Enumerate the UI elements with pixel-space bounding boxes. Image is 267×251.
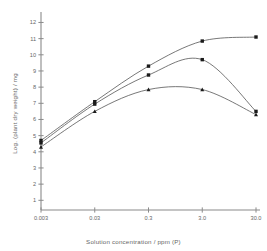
y-tick-label: 1 <box>33 197 36 203</box>
data-point-marker <box>201 39 204 42</box>
data-point-marker <box>201 58 204 61</box>
y-tick-label: 11 <box>30 36 36 42</box>
y-axis-title: Log. (plant dry weight) / mg <box>11 44 18 184</box>
data-series <box>39 35 258 148</box>
data-point-marker <box>254 35 257 38</box>
x-axis-title: Solution concentration / ppm (P) <box>0 238 267 245</box>
y-tick-label: 8 <box>33 84 36 90</box>
x-tick-label: 0.03 <box>89 215 100 221</box>
y-tick-label: 5 <box>33 133 36 139</box>
plot-area <box>0 0 267 251</box>
data-point-marker <box>254 110 257 113</box>
y-tick-label: 7 <box>33 100 36 106</box>
y-tick-label: 12 <box>30 19 36 25</box>
y-tick-label: 9 <box>33 68 36 74</box>
y-tick-label: 2 <box>33 181 36 187</box>
data-point-marker <box>147 64 150 67</box>
x-tick-label: 0.3 <box>145 215 153 221</box>
chart-figure: 1234567891011120.0030.030.33.030.0 Solut… <box>0 0 267 251</box>
data-point-marker <box>93 102 96 105</box>
data-point-marker <box>39 141 42 144</box>
data-point-marker <box>39 145 43 149</box>
x-tick-label: 3.0 <box>198 215 206 221</box>
y-tick-label: 3 <box>33 165 36 171</box>
data-point-marker <box>254 113 258 117</box>
x-tick-label: 30.0 <box>251 215 262 221</box>
y-tick-label: 10 <box>30 52 36 58</box>
y-tick-label: 6 <box>33 116 36 122</box>
data-point-marker <box>147 73 150 76</box>
x-tick-label: 0.003 <box>34 215 48 221</box>
data-point-marker <box>93 109 97 113</box>
axes <box>38 12 260 213</box>
y-tick-label: 4 <box>33 149 36 155</box>
series-line-2 <box>41 58 256 143</box>
